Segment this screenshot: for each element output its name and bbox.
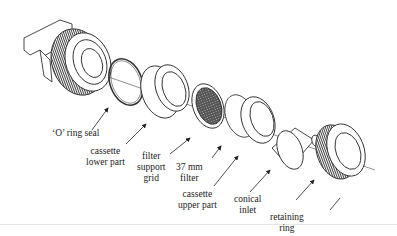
retaining-ring-shape xyxy=(309,118,373,184)
sampler-body xyxy=(24,20,119,103)
retaining-ring-leader xyxy=(330,198,340,210)
cassette-lower-part-shape xyxy=(134,60,195,124)
label-cassette-lower-part: cassette lower part xyxy=(86,146,125,168)
baseline-rule xyxy=(0,224,397,225)
label-37mm-filter: 37 mm filter xyxy=(176,162,203,184)
filter-support-grid-shape xyxy=(186,79,230,132)
label-retaining-ring: retaining ring xyxy=(270,212,304,234)
label-filter-support-grid: filter support grid xyxy=(137,151,166,184)
label-cassette-upper-part: cassette upper part xyxy=(178,189,217,211)
label-conical-inlet: conical inlet xyxy=(234,194,261,216)
conical-inlet-shape xyxy=(272,127,322,173)
label-o-ring-seal: ‘O’ ring seal xyxy=(52,128,99,139)
